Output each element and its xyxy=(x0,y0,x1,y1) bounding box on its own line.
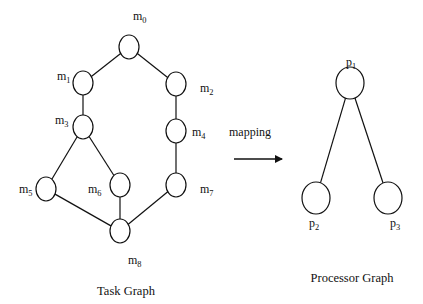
task-edge-m7-m8 xyxy=(128,192,167,224)
proc-edge-p1-p3 xyxy=(355,98,383,183)
mapping-label: mapping xyxy=(229,125,271,139)
task-node-m8 xyxy=(110,219,130,243)
task-node-m2 xyxy=(166,72,186,96)
proc-node-label-p3: p3 xyxy=(390,216,400,232)
task-node-label-m0: m0 xyxy=(133,9,147,25)
task-node-label-m1: m1 xyxy=(57,69,71,85)
task-node-label-m5: m5 xyxy=(19,182,33,198)
proc-node-label-p1: p1 xyxy=(346,55,356,71)
processor-graph-edges xyxy=(320,98,383,183)
diagram-canvas: m0m1m2m3m4m5m6m7m8 mapping p1p2p3 Task G… xyxy=(0,0,423,304)
proc-node-label-p2: p2 xyxy=(309,216,319,232)
task-node-m6 xyxy=(110,173,130,197)
task-node-label-m4: m4 xyxy=(192,125,206,141)
task-node-label-m8: m8 xyxy=(128,253,142,269)
task-node-m7 xyxy=(166,173,186,197)
task-node-m1 xyxy=(73,71,93,95)
processor-graph-nodes: p1p2p3 xyxy=(302,55,402,232)
task-edge-m3-m5 xyxy=(52,137,77,179)
task-node-label-m3: m3 xyxy=(55,113,69,129)
processor-graph-title: Processor Graph xyxy=(311,271,395,285)
task-graph-title: Task Graph xyxy=(97,284,156,298)
task-edge-m5-m8 xyxy=(55,194,111,226)
proc-node-p2 xyxy=(302,182,330,214)
task-node-m4 xyxy=(166,119,186,143)
task-node-m5 xyxy=(36,177,56,201)
task-node-m3 xyxy=(73,115,93,139)
task-node-label-m7: m7 xyxy=(200,182,214,198)
task-node-m0 xyxy=(119,35,139,59)
task-edge-m0-m2 xyxy=(137,54,167,78)
task-node-label-m6: m6 xyxy=(88,182,102,198)
task-graph-nodes: m0m1m2m3m4m5m6m7m8 xyxy=(19,9,214,269)
task-edge-m3-m6 xyxy=(89,137,114,176)
proc-node-p3 xyxy=(374,182,402,214)
proc-edge-p1-p2 xyxy=(320,98,345,183)
proc-node-p1 xyxy=(336,67,364,99)
task-edge-m0-m1 xyxy=(91,54,120,77)
task-node-label-m2: m2 xyxy=(200,81,214,97)
